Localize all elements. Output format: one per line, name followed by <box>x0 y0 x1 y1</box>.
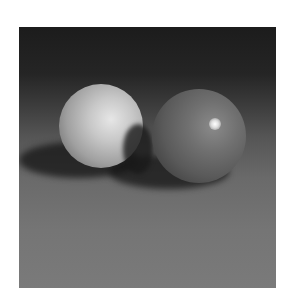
right-sphere <box>152 89 246 183</box>
specular-highlight <box>209 118 221 130</box>
occlusion-shadow <box>123 124 153 174</box>
rendered-scene-image <box>19 27 276 288</box>
